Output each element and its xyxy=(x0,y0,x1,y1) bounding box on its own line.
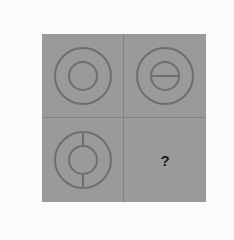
cell-top-right xyxy=(124,34,206,118)
concentric-circles-horizontal-line-icon xyxy=(133,44,197,108)
puzzle-grid: ? xyxy=(42,34,206,202)
question-mark: ? xyxy=(160,153,169,168)
cell-top-left xyxy=(42,34,124,118)
concentric-circles-vertical-spokes-icon xyxy=(51,128,115,192)
cell-bottom-left xyxy=(42,118,124,202)
cell-bottom-right-missing: ? xyxy=(124,118,206,202)
concentric-circles-icon xyxy=(51,44,115,108)
